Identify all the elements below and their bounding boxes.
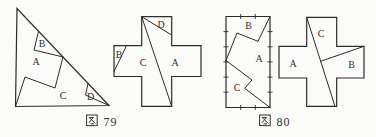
fig79-cross-piece-label-B: B [116,49,123,60]
caption-79-number: 79 [104,115,118,129]
caption-80-number: 80 [277,115,291,129]
fig79-triangle-dissection: ABCD [16,9,110,107]
fig80-cross-piece-label-C: C [318,28,325,39]
fig79-cross-piece-label-C: C [140,57,147,68]
fig80-rect-piece-label-C: C [234,82,241,93]
fig80-cross-dissection: ABC [279,17,364,106]
figure-panel: ABCD ABCD BAC ABC 79 80 [0,0,376,137]
tu-character-icon [87,115,98,126]
dissection-diagram: ABCD ABCD BAC ABC 79 80 [0,0,376,137]
fig80-rect-piece-label-B: B [245,20,252,31]
fig80-rect-piece-label-A: A [255,53,263,64]
caption-figure-79: 79 [87,115,118,129]
fig79-cross-piece-label-D: D [157,19,164,30]
fig79-triangle-piece-label-B: B [39,38,46,49]
fig80-cross-cut-line [321,46,364,61]
fig80-cross-piece-label-B: B [348,59,355,70]
fig79-triangle-piece-label-C: C [60,90,67,101]
caption-figure-80: 80 [260,115,291,129]
fig79-cross-dissection: ABCD [114,17,201,107]
fig79-cross-outline [114,17,201,107]
tu-character-icon [260,115,271,126]
fig79-cross-piece-label-A: A [171,57,179,68]
fig80-rectangle-dissection: BAC [224,14,273,110]
fig80-rect-cut-line [226,61,270,108]
fig79-triangle-piece-label-D: D [87,91,94,102]
fig80-cross-piece-label-A: A [289,58,297,69]
fig79-triangle-piece-label-A: A [32,56,40,67]
